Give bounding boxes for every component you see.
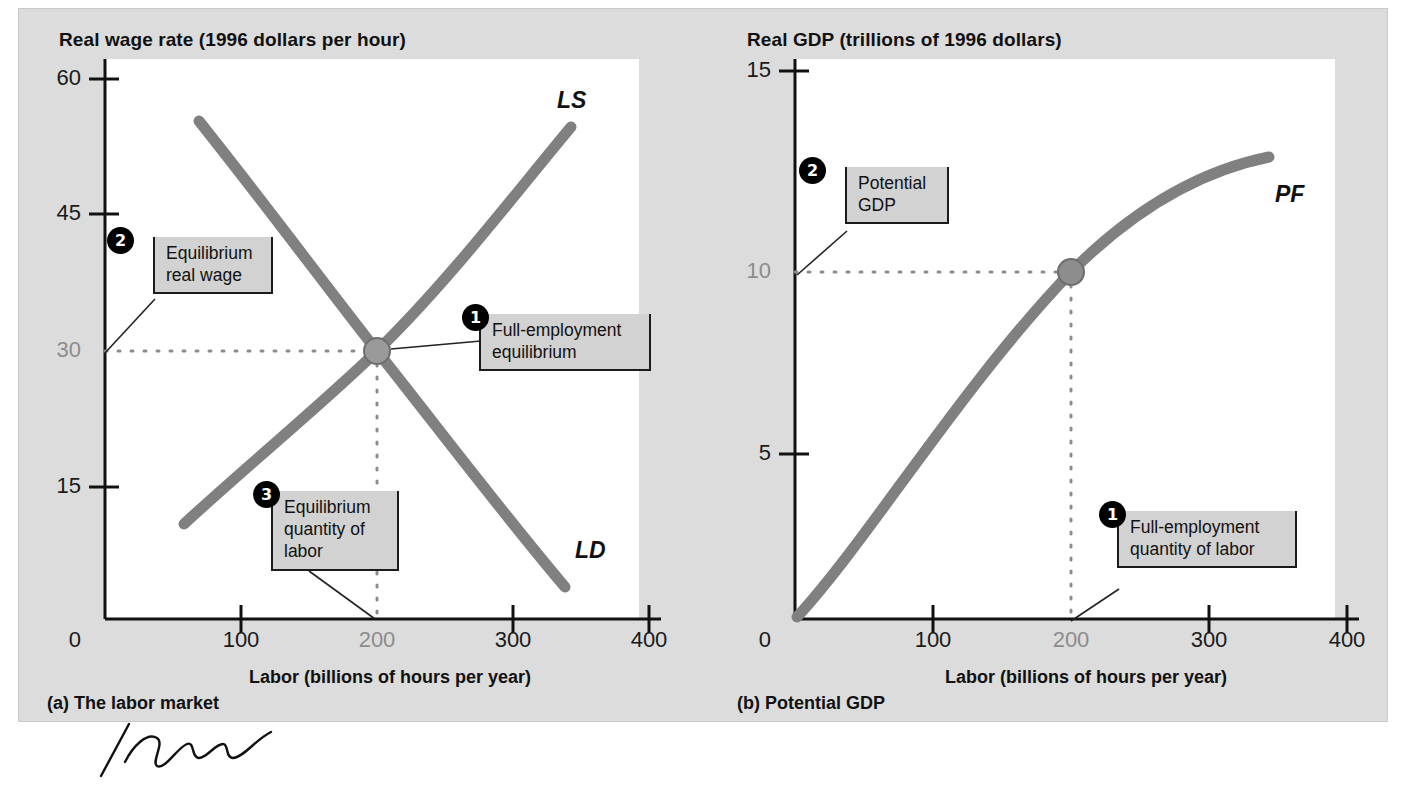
callout-badge-1-a: 1	[462, 304, 489, 331]
callout-box-equilibrium-real-wage: Equilibrium real wage	[153, 237, 273, 294]
panel-labor-market: Real wage rate (1996 dollars per hour)	[19, 9, 719, 721]
callout-line: quantity of labor	[1130, 538, 1286, 560]
panel-a-caption: (a) The labor market	[47, 693, 219, 714]
callout-box-full-employment-equilibrium: Full-employment equilibrium	[479, 314, 651, 371]
x-tick-label-b-1: 100	[903, 627, 963, 653]
leader-line-callout-1-a	[391, 341, 481, 349]
panel-b-svg	[719, 9, 1387, 721]
curve-label-ld: LD	[575, 537, 606, 564]
leader-line-callout-3-a	[309, 571, 375, 619]
figure-page: Real wage rate (1996 dollars per hour)	[0, 0, 1402, 786]
panel-potential-gdp: Real GDP (trillions of 1996 dollars) 15 …	[719, 9, 1387, 721]
x-tick-label-a-1: 100	[211, 627, 271, 653]
x-tick-label-b-4: 400	[1317, 627, 1377, 653]
handwritten-signature-mark	[95, 718, 325, 780]
callout-line: Equilibrium	[284, 496, 388, 518]
curve-label-ls: LS	[557, 87, 586, 114]
x-tick-label-a-3: 300	[483, 627, 543, 653]
potential-gdp-point-b	[1058, 259, 1084, 285]
callout-line: real wage	[166, 264, 262, 286]
callout-badge-2-a: 2	[107, 227, 134, 254]
y-tick-label-a-4: 0	[39, 627, 81, 653]
x-tick-label-a-2: 200	[347, 627, 407, 653]
callout-box-equilibrium-quantity-of-labor: Equilibrium quantity of labor	[271, 491, 399, 571]
panel-b-x-axis-title: Labor (billions of hours per year)	[945, 667, 1227, 688]
callout-line: Full-employment	[492, 319, 640, 341]
callout-badge-1-b: 1	[1099, 501, 1126, 528]
leader-line-callout-2-b	[797, 231, 847, 275]
callout-box-full-employment-quantity-of-labor: Full-employment quantity of labor	[1117, 511, 1297, 568]
callout-line: quantity of	[284, 518, 388, 540]
callout-box-potential-gdp: Potential GDP	[845, 167, 949, 224]
y-tick-label-b-3: 0	[727, 627, 771, 653]
curve-label-pf: PF	[1275, 181, 1304, 208]
panel-a-x-axis-title: Labor (billions of hours per year)	[249, 667, 531, 688]
x-tick-label-a-4: 400	[619, 627, 679, 653]
y-tick-label-a-0: 60	[39, 65, 81, 91]
callout-line: labor	[284, 540, 388, 562]
x-tick-label-b-3: 300	[1179, 627, 1239, 653]
callout-line: Equilibrium	[166, 242, 262, 264]
panel-b-caption: (b) Potential GDP	[737, 693, 885, 714]
figure-container: Real wage rate (1996 dollars per hour)	[18, 8, 1388, 722]
leader-line-callout-1-b	[1071, 589, 1119, 621]
y-tick-label-b-0: 15	[727, 57, 771, 83]
callout-badge-2-b: 2	[799, 157, 826, 184]
equilibrium-point-a	[364, 338, 390, 364]
y-tick-label-a-2: 30	[39, 337, 81, 363]
callout-line: Full-employment	[1130, 516, 1286, 538]
callout-line: GDP	[858, 194, 938, 216]
callout-line: Potential	[858, 172, 938, 194]
x-tick-label-b-2: 200	[1041, 627, 1101, 653]
callout-line: equilibrium	[492, 341, 640, 363]
leader-line-callout-2-a	[105, 299, 155, 353]
y-tick-label-b-2: 5	[727, 440, 771, 466]
y-tick-label-b-1: 10	[727, 258, 771, 284]
callout-badge-3-a: 3	[253, 481, 280, 508]
y-tick-label-a-1: 45	[39, 200, 81, 226]
y-tick-label-a-3: 15	[39, 473, 81, 499]
